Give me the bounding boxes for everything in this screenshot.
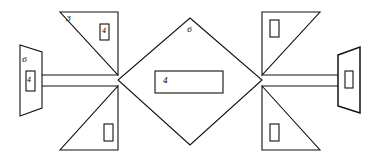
right-pavilion: [338, 47, 360, 113]
bottom-left-wing-inner-box: [104, 124, 113, 141]
top-right-wing-inner-box: [270, 20, 279, 37]
top-right-triangle-wing: [262, 12, 320, 75]
left-pavilion-box-number: 4: [27, 77, 31, 84]
left-pavilion-number: 6: [22, 56, 27, 64]
top-left-wing-box-number: 4: [102, 28, 106, 35]
central-diamond: [118, 18, 262, 145]
central-rectangle-number: 4: [163, 77, 168, 85]
bottom-left-triangle-wing: [60, 86, 118, 150]
bottom-right-triangle-wing: [262, 86, 320, 150]
bottom-right-wing-inner-box: [270, 124, 279, 141]
top-left-triangle-number: 3: [66, 15, 71, 23]
central-diamond-number: 6: [187, 26, 192, 34]
right-pavilion-inner-box: [345, 71, 353, 88]
